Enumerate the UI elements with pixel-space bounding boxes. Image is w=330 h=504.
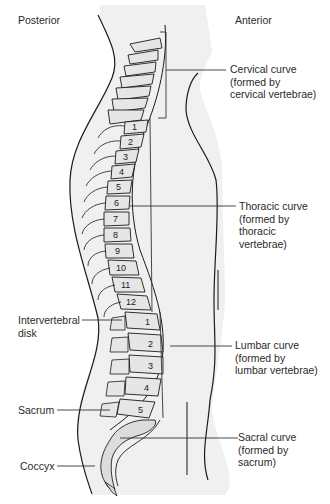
lumbar-number: 3 xyxy=(148,361,153,371)
thoracic-number: 1 xyxy=(132,122,137,132)
thoracic-number: 9 xyxy=(115,246,120,256)
anterior-label: Anterior xyxy=(235,14,272,26)
thoracic-curve-label: Thoracic curve (formed by thoracic verte… xyxy=(239,200,308,250)
lumbar-number: 5 xyxy=(138,405,143,415)
spine-curvature-diagram: 1 2 3 4 5 6 7 8 9 10 11 12 1 2 3 4 5 xyxy=(0,0,330,504)
thoracic-number: 7 xyxy=(113,214,118,224)
thoracic-number: 8 xyxy=(113,230,118,240)
sacrum-label: Sacrum xyxy=(18,404,54,417)
coccyx-label: Coccyx xyxy=(20,460,54,473)
thoracic-number: 4 xyxy=(119,167,124,177)
sacral-curve-label: Sacral curve (formed by sacrum) xyxy=(238,431,296,469)
thoracic-number: 3 xyxy=(123,152,128,162)
lumbar-number: 2 xyxy=(148,339,153,349)
thoracic-number: 5 xyxy=(116,182,121,192)
lumbar-number: 1 xyxy=(145,317,150,327)
thoracic-number: 6 xyxy=(114,198,119,208)
thoracic-number: 11 xyxy=(121,280,130,290)
thoracic-number: 10 xyxy=(116,263,126,273)
thoracic-number: 12 xyxy=(126,297,136,307)
lumbar-number: 4 xyxy=(144,383,149,393)
posterior-label: Posterior xyxy=(18,14,60,26)
lumbar-curve-label: Lumbar curve (formed by lumbar vertebrae… xyxy=(235,339,318,377)
thoracic-number: 2 xyxy=(128,137,133,147)
cervical-curve-label: Cervical curve (formed by cervical verte… xyxy=(230,63,316,101)
intervertebral-disk-label: Intervertebral disk xyxy=(18,314,80,339)
